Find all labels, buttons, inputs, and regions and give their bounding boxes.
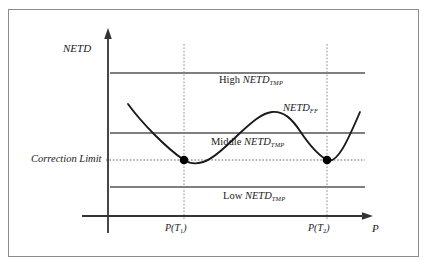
band-label-low: Low NETDTMP [223, 191, 285, 202]
x-tick-label-pt2: P(T2) [308, 223, 330, 234]
correction-limit-label: Correction Limit [31, 154, 102, 165]
x-tick-label-pt1-close: ) [183, 222, 186, 233]
x-axis-arrowhead [362, 212, 373, 220]
netd-ff-curve [128, 104, 360, 163]
band-label-middle-base: NETD [244, 136, 271, 147]
x-tick-label-pt2-close: ) [326, 222, 329, 233]
marker-point-pt1 [180, 156, 189, 165]
band-label-middle-subscript: TMP [271, 141, 285, 148]
curve-label: NETDFF [283, 103, 318, 114]
band-label-middle-prefix: Middle [211, 136, 241, 147]
marker-point-pt2 [323, 156, 332, 165]
band-label-low-prefix: Low [223, 190, 242, 201]
y-axis-arrowhead [104, 28, 112, 39]
band-label-high-base: NETD [243, 74, 270, 85]
curve-label-subscript: FF [310, 107, 318, 114]
curve-label-base: NETD [283, 102, 310, 113]
x-tick-label-pt2-base: P(T [308, 222, 323, 233]
band-label-low-base: NETD [245, 190, 272, 201]
plot-canvas [0, 0, 428, 267]
band-label-low-subscript: TMP [272, 195, 286, 202]
y-axis-label: NETD [63, 43, 91, 54]
band-label-high-subscript: TMP [269, 79, 283, 86]
x-tick-label-pt1-base: P(T [165, 222, 180, 233]
x-tick-label-pt1: P(T1) [165, 223, 187, 234]
band-label-high-prefix: High [219, 74, 240, 85]
x-axis-label: P [372, 223, 379, 234]
figure-container: NETD P High NETDTMP NETDFF Middle NETDTM… [0, 0, 428, 267]
band-label-high: High NETDTMP [219, 75, 283, 86]
band-label-middle: Middle NETDTMP [211, 137, 284, 148]
